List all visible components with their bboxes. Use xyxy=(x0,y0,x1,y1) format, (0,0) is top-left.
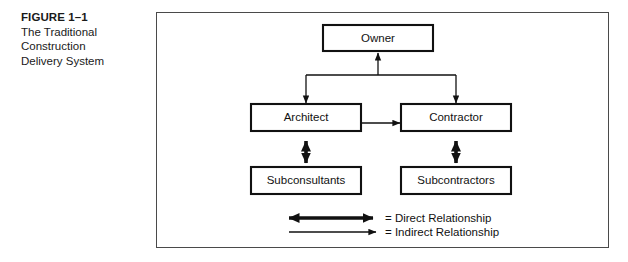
figure-frame: Owner Architect Contractor Subconsultant… xyxy=(156,12,609,248)
figure-title-line-2: Construction xyxy=(21,39,146,54)
legend-row-direct: = Direct Relationship xyxy=(289,212,491,224)
legend-label-indirect: = Indirect Relationship xyxy=(385,226,499,238)
legend-label-direct: = Direct Relationship xyxy=(385,212,491,224)
node-architect-label: Architect xyxy=(284,111,330,123)
figure-title-line-1: The Traditional xyxy=(21,25,146,40)
figure-caption: FIGURE 1–1 The Traditional Construction … xyxy=(21,10,146,68)
node-owner[interactable]: Owner xyxy=(323,25,433,51)
node-subconsultants[interactable]: Subconsultants xyxy=(251,167,361,194)
node-architect[interactable]: Architect xyxy=(251,104,361,131)
legend-row-indirect: = Indirect Relationship xyxy=(289,226,499,238)
node-subcontractors[interactable]: Subcontractors xyxy=(401,167,511,194)
figure-title-line-3: Delivery System xyxy=(21,54,146,69)
figure-number: FIGURE 1–1 xyxy=(21,10,146,25)
node-owner-label: Owner xyxy=(361,32,395,44)
node-subcontractors-label: Subcontractors xyxy=(417,174,495,186)
delivery-system-diagram: Owner Architect Contractor Subconsultant… xyxy=(157,13,610,249)
node-contractor[interactable]: Contractor xyxy=(401,104,511,131)
node-subconsultants-label: Subconsultants xyxy=(267,174,346,186)
node-contractor-label: Contractor xyxy=(429,111,483,123)
